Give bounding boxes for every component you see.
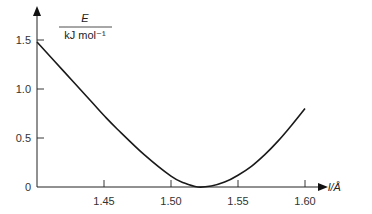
y-axis-label-denominator: kJ mol⁻¹ bbox=[64, 29, 106, 41]
energy-curve bbox=[37, 42, 305, 187]
x-tick-label: 1.55 bbox=[227, 195, 248, 207]
ticks: 1.451.501.551.6000.51.01.5 bbox=[16, 34, 316, 207]
y-tick-label: 0 bbox=[25, 181, 31, 193]
x-axis-label: l/Å bbox=[328, 181, 341, 193]
y-tick-label: 1.0 bbox=[16, 83, 31, 95]
x-tick-label: 1.45 bbox=[93, 195, 114, 207]
y-axis-label: E kJ mol⁻¹ bbox=[59, 12, 112, 41]
chart: 1.451.501.551.6000.51.01.5 E kJ mol⁻¹ l/… bbox=[0, 0, 372, 214]
y-tick-label: 1.5 bbox=[16, 34, 31, 46]
y-axis-arrow-icon bbox=[33, 6, 41, 16]
x-tick-label: 1.60 bbox=[294, 195, 315, 207]
y-tick-label: 0.5 bbox=[16, 132, 31, 144]
x-axis-arrow-icon bbox=[318, 183, 328, 191]
x-tick-label: 1.50 bbox=[160, 195, 181, 207]
y-axis-label-numerator: E bbox=[81, 12, 89, 24]
